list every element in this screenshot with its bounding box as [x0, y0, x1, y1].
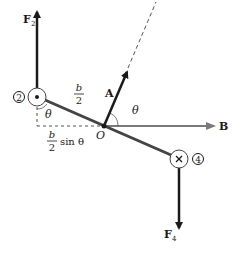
force-f2-subscript: 2: [31, 20, 35, 28]
origin-label: O: [96, 129, 105, 142]
field-b-label: B: [219, 120, 228, 133]
current-out-dot-icon: [35, 95, 39, 99]
force-f2-label: F: [23, 13, 31, 26]
projection-sin-theta: sin θ: [60, 136, 84, 147]
conductor-4: [170, 150, 188, 168]
origin-point: [102, 124, 107, 129]
half-b-denominator: 2: [76, 95, 82, 106]
force-f4-subscript: 4: [172, 235, 177, 243]
theta-arc-top: [110, 113, 118, 126]
force-f4-label: F: [164, 228, 172, 241]
theta-label-top: θ: [132, 104, 139, 117]
magnetic-torque-diagram: 2 4 F 2 F 4 A B O θ θ b 2 b 2 sin θ: [0, 0, 244, 253]
badge-4-label: 4: [195, 155, 201, 165]
theta-label-left: θ: [45, 108, 52, 121]
vector-a-label: A: [104, 87, 114, 100]
projection-numerator: b: [49, 129, 55, 140]
normal-dashed-line: [128, 2, 156, 68]
projection-label: b 2 sin θ: [47, 129, 84, 153]
conductor-2: [28, 88, 46, 106]
half-b-numerator: b: [76, 82, 82, 93]
half-b-fraction: b 2: [74, 82, 84, 106]
badge-2-label: 2: [16, 93, 22, 103]
projection-denominator: 2: [49, 142, 55, 153]
